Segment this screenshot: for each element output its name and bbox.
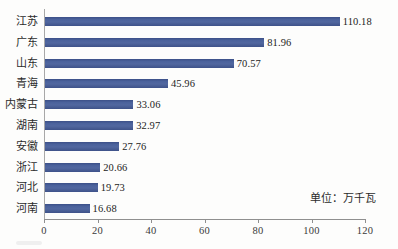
x-tick-mark-1 <box>98 219 99 223</box>
x-tick-mark-2 <box>151 219 152 223</box>
bar-chart: 江苏110.18广东81.96山东70.57青海45.96内蒙古33.06湖南3… <box>0 0 398 249</box>
bar-value-label-3: 45.96 <box>171 73 195 94</box>
x-tick-mark-4 <box>258 219 259 223</box>
category-label-1: 广东 <box>0 32 38 53</box>
x-tick-label-3: 60 <box>185 225 225 236</box>
bar-value-label-2: 70.57 <box>237 53 261 74</box>
category-label-8: 河北 <box>0 177 38 198</box>
x-tick-mark-5 <box>312 219 313 223</box>
x-tick-label-5: 100 <box>292 225 332 236</box>
bar-5 <box>45 121 133 130</box>
bar-9 <box>45 204 90 213</box>
x-tick-mark-6 <box>365 219 366 223</box>
bar-value-label-6: 27.76 <box>122 136 146 157</box>
category-label-3: 青海 <box>0 73 38 94</box>
bar-1 <box>45 38 264 47</box>
bar-row: 广东81.96 <box>0 32 398 53</box>
bar-row: 浙江20.66 <box>0 157 398 178</box>
bar-value-label-1: 81.96 <box>267 32 291 53</box>
x-tick-label-6: 120 <box>345 225 385 236</box>
category-label-2: 山东 <box>0 53 38 74</box>
bar-8 <box>45 183 98 192</box>
y-axis-line <box>44 9 45 219</box>
category-label-4: 内蒙古 <box>0 94 38 115</box>
scan-artifact <box>16 241 42 245</box>
category-label-7: 浙江 <box>0 157 38 178</box>
bar-row: 青海45.96 <box>0 73 398 94</box>
x-tick-mark-0 <box>44 219 45 223</box>
bar-value-label-5: 32.97 <box>136 115 160 136</box>
bar-row: 山东70.57 <box>0 53 398 74</box>
plot-area: 江苏110.18广东81.96山东70.57青海45.96内蒙古33.06湖南3… <box>0 0 398 249</box>
bar-value-label-7: 20.66 <box>103 157 127 178</box>
bar-6 <box>45 142 119 151</box>
bar-4 <box>45 100 133 109</box>
x-tick-label-0: 0 <box>24 225 64 236</box>
x-tick-label-1: 20 <box>78 225 118 236</box>
unit-annotation: 单位：万千瓦 <box>310 189 376 205</box>
category-label-9: 河南 <box>0 198 38 219</box>
x-tick-label-2: 40 <box>131 225 171 236</box>
bar-row: 内蒙古33.06 <box>0 94 398 115</box>
bar-row: 江苏110.18 <box>0 11 398 32</box>
bar-value-label-9: 16.68 <box>93 198 117 219</box>
category-label-5: 湖南 <box>0 115 38 136</box>
bar-value-label-4: 33.06 <box>136 94 160 115</box>
bar-2 <box>45 59 234 68</box>
x-tick-label-4: 80 <box>238 225 278 236</box>
bar-value-label-0: 110.18 <box>343 11 372 32</box>
bar-row: 湖南32.97 <box>0 115 398 136</box>
bar-row: 安徽27.76 <box>0 136 398 157</box>
bar-value-label-8: 19.73 <box>101 177 125 198</box>
category-label-0: 江苏 <box>0 11 38 32</box>
x-tick-mark-3 <box>205 219 206 223</box>
bar-7 <box>45 163 100 172</box>
bar-3 <box>45 79 168 88</box>
bar-0 <box>45 17 340 26</box>
category-label-6: 安徽 <box>0 136 38 157</box>
